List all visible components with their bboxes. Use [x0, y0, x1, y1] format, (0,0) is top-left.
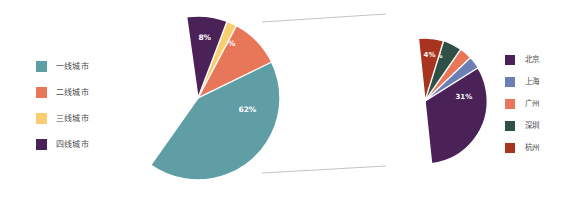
- legend-color-swatch: [36, 139, 47, 150]
- legend-color-swatch: [36, 61, 47, 72]
- connector-line-bottom: [262, 166, 386, 173]
- legend-item-label: 广州: [525, 98, 539, 109]
- legend-color-swatch: [505, 77, 515, 87]
- pie-chart-city-tier-distribution: 62%20%10%8%: [116, 16, 280, 180]
- legend-color-swatch: [36, 113, 47, 124]
- legend-tier1-city-item[interactable]: 广州: [505, 97, 539, 110]
- legend-tier1-city-item[interactable]: 上海: [505, 75, 539, 88]
- pie-chart-tier1-city-breakdown: 31%11%9%7%4%: [362, 38, 488, 164]
- legend-item-label: 杭州: [525, 142, 539, 153]
- legend-color-swatch: [505, 143, 515, 153]
- legend-tier1-city-item[interactable]: 北京: [505, 53, 539, 66]
- legend-color-swatch: [505, 99, 515, 109]
- connector-line-top: [262, 14, 386, 22]
- legend-tier1-cities: 北京上海广州深圳杭州: [505, 53, 539, 163]
- legend-color-swatch: [505, 55, 515, 65]
- legend-color-swatch: [36, 87, 47, 98]
- legend-item-label: 一线城市: [56, 61, 89, 72]
- pie-svg: 62%20%10%8%: [116, 16, 280, 180]
- legend-color-swatch: [505, 121, 515, 131]
- legend-city-tier-item[interactable]: 一线城市: [36, 60, 89, 73]
- legend-city-tier-item[interactable]: 四线城市: [36, 138, 89, 151]
- legend-tier1-city-item[interactable]: 深圳: [505, 119, 539, 132]
- legend-item-label: 深圳: [525, 120, 539, 131]
- legend-city-tiers: 一线城市二线城市三线城市四线城市: [36, 60, 89, 164]
- pie-chart-figure: 一线城市二线城市三线城市四线城市 62%20%10%8% 31%11%9%7%4…: [0, 0, 582, 197]
- legend-item-label: 四线城市: [56, 139, 89, 150]
- legend-item-label: 二线城市: [56, 87, 89, 98]
- legend-item-label: 北京: [525, 54, 539, 65]
- legend-tier1-city-item[interactable]: 杭州: [505, 141, 539, 154]
- legend-city-tier-item[interactable]: 三线城市: [36, 112, 89, 125]
- pie-svg: 31%11%9%7%4%: [362, 38, 488, 164]
- legend-item-label: 上海: [525, 76, 539, 87]
- legend-item-label: 三线城市: [56, 113, 89, 124]
- legend-city-tier-item[interactable]: 二线城市: [36, 86, 89, 99]
